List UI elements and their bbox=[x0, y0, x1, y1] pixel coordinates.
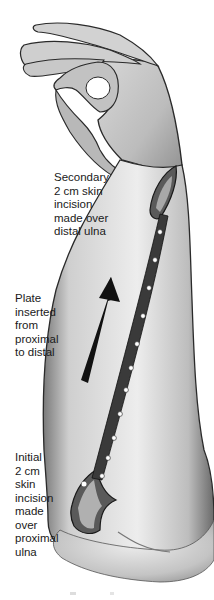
initial-incision-label: Initial 2 cm skin incision made over pro… bbox=[15, 451, 58, 559]
secondary-incision-label: Secondary 2 cm skin incision made over d… bbox=[54, 171, 109, 239]
hand-drawing bbox=[21, 23, 182, 180]
plate-direction-label: Plate inserted from proximal to distal bbox=[15, 292, 58, 360]
